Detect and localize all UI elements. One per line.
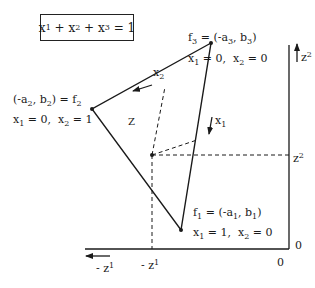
f2-label: (-a2, b2) = f2 — [13, 94, 81, 106]
f2-condition: x1 = 0, x2 = 1 — [13, 114, 93, 126]
plus-sign: + — [80, 21, 98, 35]
f2-text: (-a — [13, 93, 28, 106]
constraint-box: x1 + x2 + x3 = 1 — [40, 14, 134, 41]
z2-axis-label: z2 — [301, 52, 312, 64]
x2-direction-label: x2 — [153, 67, 164, 79]
f1-text: ) — [257, 206, 261, 219]
f3-condition: x1 = 0, x2 = 0 — [188, 53, 268, 65]
vertex-f2 — [90, 107, 94, 111]
x1-direction-label: x1 — [215, 115, 226, 127]
cond-x2-val: = 1 — [69, 113, 92, 126]
f1-text: = (-a — [202, 206, 233, 219]
interior-point — [150, 153, 154, 157]
x1-var: x — [39, 21, 46, 35]
neg-z1-tick-base: - z — [141, 259, 154, 272]
cond-x1-val: = 0, — [199, 52, 233, 65]
neg-z1-tick-sup: 1 — [154, 258, 159, 267]
region-z-label: Z — [128, 116, 135, 128]
cond-x2-val: = 0 — [249, 226, 272, 239]
z2-tick-label: z2 — [293, 153, 304, 165]
diagram-canvas — [0, 0, 315, 288]
x3-var: x — [98, 21, 105, 35]
x2-direction-arrow-icon — [133, 85, 152, 91]
z2-sup: 2 — [307, 50, 312, 59]
f1-label: f1 = (-a1, b1) — [193, 207, 261, 219]
x2-var: x — [68, 21, 75, 35]
vertex-f1 — [179, 228, 183, 232]
x2-sub: 2 — [159, 72, 164, 81]
x1-direction-arrow-icon — [209, 117, 212, 134]
cond-x1-val: = 0, — [24, 113, 58, 126]
equals-one: = 1 — [110, 21, 135, 35]
dashed-line-to-edge-f2f3 — [152, 87, 165, 155]
origin-bottom-label: 0 — [277, 257, 284, 269]
f1-condition: x1 = 1, x2 = 0 — [193, 227, 273, 239]
x1-sub: 1 — [221, 120, 226, 129]
f2-f-sub: 2 — [76, 99, 81, 108]
f3-text: , b — [233, 31, 247, 44]
neg-z1-tick-label: - z1 — [141, 260, 159, 272]
f2-text: , b — [33, 93, 47, 106]
neg-z1-axis-label: - z1 — [96, 263, 114, 275]
cond-x2-val: = 0 — [244, 52, 267, 65]
cond-x1-val: = 1, — [204, 226, 238, 239]
plus-sign: + — [51, 21, 69, 35]
feasible-triangle — [92, 43, 211, 230]
f2-text: ) = f — [52, 93, 77, 106]
neg-z1-base: - z — [96, 262, 109, 275]
f3-text: ) — [252, 31, 256, 44]
origin-right-label: 0 — [295, 240, 302, 252]
neg-z1-sup: 1 — [109, 261, 114, 270]
f1-text: , b — [238, 206, 252, 219]
f3-text: = (-a — [197, 31, 228, 44]
z2-tick-sup: 2 — [299, 151, 304, 160]
dashed-line-to-edge-f3f1 — [152, 140, 197, 155]
f3-label: f3 = (-a3, b3) — [188, 32, 256, 44]
